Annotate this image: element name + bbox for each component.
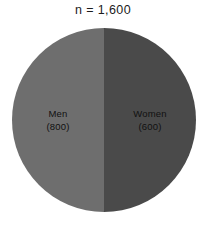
pie-slice-women-label: Women (600) [104,108,196,133]
pie-slice-women-value: (600) [104,120,196,133]
pie-slice-women-name: Women [104,108,196,121]
pie-slice-men-value: (800) [12,120,104,133]
pie-slice-men[interactable]: Men (800) [12,28,104,212]
pie-chart-figure: n = 1,600 Men (800) Women (600) [0,0,206,235]
pie-slice-men-name: Men [12,108,104,121]
pie-chart-graphic: Men (800) Women (600) [12,28,196,212]
pie-slice-men-label: Men (800) [12,108,104,133]
pie-slice-women[interactable]: Women (600) [104,28,196,212]
chart-title: n = 1,600 [0,3,206,17]
